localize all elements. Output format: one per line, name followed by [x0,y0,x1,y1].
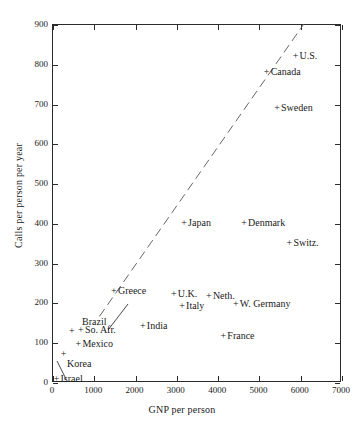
data-point-label: Korea [67,359,91,369]
data-point-label: Switz. [293,238,318,248]
data-point-marker: + [293,51,299,61]
y-tick-label: 900 [35,20,49,29]
y-tick-label: 700 [35,99,49,108]
y-tick-label: 400 [35,218,49,227]
data-point-label: Neth. [213,291,235,301]
x-tick-label: 3000 [167,386,185,395]
data-point-label: Brazil [82,317,106,327]
y-tick-label: 200 [35,298,49,307]
y-axis-tick-labels: 0100200300400500600700800900 [0,0,48,434]
x-tick-mark-top [342,25,343,30]
y-tick-label: 100 [35,338,49,347]
data-point-marker: + [54,374,60,384]
y-tick-label: 800 [35,59,49,68]
data-point-marker: + [264,67,270,77]
y-tick-label: 600 [35,139,49,148]
data-point-label: Mexico [82,339,113,349]
x-axis-title: GNP per person [0,404,364,415]
data-point-marker: + [221,331,227,341]
data-point-label: Japan [188,218,211,228]
data-point-marker: + [179,301,185,311]
data-layer: +U.S.+Canada+Sweden+Denmark+Switz.+Japan… [52,24,341,382]
x-tick-label: 5000 [249,386,267,395]
y-axis-title: Calls per person per year [13,116,24,276]
data-point-label: France [227,331,254,341]
x-tick-label: 1000 [84,386,102,395]
data-point-marker: + [287,238,293,248]
data-point-label: Greece [118,286,146,296]
data-point-marker: + [140,321,146,331]
x-tick-mark [342,376,343,381]
data-point-marker: + [76,339,82,349]
data-point-marker: + [69,326,75,336]
data-point-label: Israel [61,374,83,384]
x-tick-label: 7000 [332,386,350,395]
data-point-marker: + [61,349,67,359]
x-tick-label: 2000 [126,386,144,395]
scatter-chart-figure: 0100200300400500600700800900 01000200030… [0,0,364,434]
x-tick-label: 6000 [291,386,309,395]
x-tick-label: 0 [50,386,55,395]
data-point-marker: + [181,218,187,228]
data-point-label: Canada [271,67,301,77]
data-point-label: U.K. [178,289,197,299]
data-point-marker: + [241,218,247,228]
x-axis-tick-labels: 01000200030004000500060007000 [0,386,364,400]
data-point-marker: + [171,289,177,299]
data-point-label: Denmark [248,218,285,228]
data-point-label: Sweden [281,103,313,113]
data-point-marker: + [111,286,117,296]
y-tick-mark-right [335,383,340,384]
data-point-label: W. Germany [240,299,291,309]
data-point-marker: + [206,291,212,301]
data-point-marker: + [274,103,280,113]
data-point-label: U.S. [300,51,318,61]
data-point-label: India [147,321,168,331]
data-point-label: Italy [186,301,204,311]
y-tick-label: 500 [35,179,49,188]
x-tick-label: 4000 [208,386,226,395]
y-tick-label: 300 [35,258,49,267]
